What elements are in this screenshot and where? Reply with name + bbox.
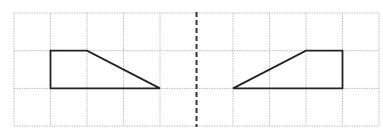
original-trapezoid [51,51,161,89]
grid-canvas [0,0,383,136]
reflected-trapezoid [233,51,343,89]
symmetry-grid-figure [0,0,383,136]
